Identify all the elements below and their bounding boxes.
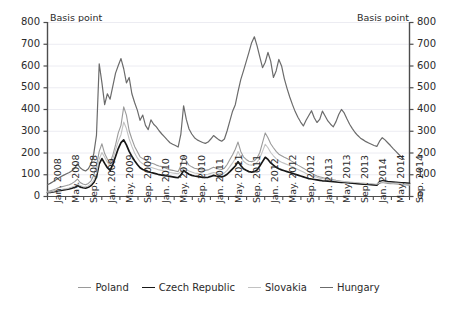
x-axis-tick-label: Jan. 2008 xyxy=(52,158,63,203)
legend-swatch-icon xyxy=(142,287,155,288)
y-axis-tick-label-right: 700 xyxy=(417,38,443,50)
legend-label: Czech Republic xyxy=(159,282,235,293)
x-axis-tick-label: May. 2011 xyxy=(233,154,244,203)
plot-area xyxy=(0,0,458,311)
series-lines xyxy=(48,37,410,193)
series-line-poland xyxy=(48,107,410,191)
x-axis-tick-label: Sep. 2012 xyxy=(305,155,316,203)
legend-item-czech-republic[interactable]: Czech Republic xyxy=(142,282,235,293)
y-axis-tick-label-left: 500 xyxy=(14,81,40,93)
y-axis-tick-label-left: 700 xyxy=(14,38,40,50)
y-axis-tick-label-right: 300 xyxy=(417,125,443,137)
legend-item-hungary[interactable]: Hungary xyxy=(320,282,380,293)
y-axis-tick-label-left: 0 xyxy=(14,190,40,202)
x-axis-tick-label: May. 2008 xyxy=(70,154,81,203)
legend-label: Poland xyxy=(95,282,128,293)
y-axis-tick-label-left: 600 xyxy=(14,60,40,72)
x-axis-tick-label: Jan. 2010 xyxy=(160,158,171,203)
y-axis-tick-label-right: 500 xyxy=(417,81,443,93)
legend-swatch-icon xyxy=(78,287,91,288)
legend-item-poland[interactable]: Poland xyxy=(78,282,128,293)
x-axis-tick-label: Jan. 2014 xyxy=(377,158,388,203)
x-axis-tick-label: Sep. 2009 xyxy=(142,155,153,203)
x-axis-tick-label: Sep. 2011 xyxy=(251,155,262,203)
x-axis-tick-label: Sep. 2014 xyxy=(414,155,425,203)
x-axis-tick-label: Jan. 2009 xyxy=(106,158,117,203)
legend-swatch-icon xyxy=(320,287,333,288)
x-axis-tick-label: May. 2009 xyxy=(124,154,135,203)
y-axis-tick-label-left: 300 xyxy=(14,125,40,137)
x-axis-tick-label: Sep. 2010 xyxy=(196,155,207,203)
y-axis-tick-label-right: 600 xyxy=(417,60,443,72)
series-line-czech-republic xyxy=(48,140,410,193)
legend-item-slovakia[interactable]: Slovakia xyxy=(248,282,307,293)
x-axis-tick-label: May. 2014 xyxy=(395,154,406,203)
y-axis-tick-label-right: 400 xyxy=(417,103,443,115)
legend-label: Hungary xyxy=(337,282,380,293)
legend-label: Slovakia xyxy=(265,282,307,293)
x-axis-tick-label: May. 2013 xyxy=(341,154,352,203)
x-axis-tick-label: May. 2012 xyxy=(287,154,298,203)
x-axis-tick-label: Jan. 2012 xyxy=(269,158,280,203)
y-axis-tick-label-right: 800 xyxy=(417,16,443,28)
y-axis-tick-label-left: 400 xyxy=(14,103,40,115)
legend-swatch-icon xyxy=(248,287,261,288)
cds-spread-line-chart: Basis point Basis point 0100200300400500… xyxy=(0,0,458,311)
x-axis-tick-label: Sep. 2008 xyxy=(88,155,99,203)
x-axis-tick-label: Sep. 2013 xyxy=(359,155,370,203)
gridlines xyxy=(48,23,410,175)
y-axis-tick-label-left: 100 xyxy=(14,168,40,180)
x-axis-tick-label: May. 2010 xyxy=(178,154,189,203)
x-axis-tick-label: Jan. 2011 xyxy=(214,158,225,203)
y-axis-tick-label-left: 200 xyxy=(14,147,40,159)
chart-legend: PolandCzech RepublicSlovakiaHungary xyxy=(0,282,458,293)
y-axis-tick-label-left: 800 xyxy=(14,16,40,28)
x-axis-tick-label: Jan. 2013 xyxy=(323,158,334,203)
